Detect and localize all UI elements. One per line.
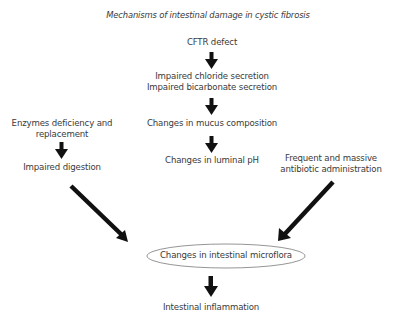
diagram-title: Mechanisms of intestinal damage in cysti…: [106, 10, 310, 21]
diagonal-arrow-right-icon: [278, 182, 333, 241]
node-antibiotic-line1: Frequent and massive: [285, 153, 377, 164]
node-bicarbonate-secretion: Impaired bicarbonate secretion: [147, 82, 277, 93]
node-enzymes-line1: Enzymes deficiency and: [12, 118, 113, 129]
down-arrow-icon: [205, 52, 218, 69]
node-impaired-digestion: Impaired digestion: [23, 162, 101, 173]
node-mucus-composition: Changes in mucus composition: [147, 118, 277, 129]
down-arrow-icon: [55, 142, 68, 159]
node-intestinal-microflora: Changes in intestinal microflora: [160, 250, 292, 261]
down-arrow-icon: [204, 276, 218, 297]
down-arrow-icon: [205, 136, 218, 153]
node-enzymes-line2: replacement: [36, 129, 89, 140]
node-intestinal-inflammation: Intestinal inflammation: [163, 302, 259, 313]
node-cftr-defect: CFTR defect: [187, 37, 237, 48]
node-chloride-secretion: Impaired chloride secretion: [155, 71, 269, 82]
diagonal-arrow-left-icon: [71, 186, 128, 242]
node-luminal-ph: Changes in luminal pH: [165, 155, 259, 166]
down-arrow-icon: [205, 98, 218, 115]
node-antibiotic-line2: antibiotic administration: [280, 164, 381, 175]
